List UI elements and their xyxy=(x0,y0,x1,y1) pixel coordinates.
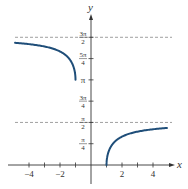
series-left-branch xyxy=(15,43,75,80)
y-tick-label-numerator: π xyxy=(81,115,85,123)
x-tick-label: −2 xyxy=(55,169,65,179)
y-tick-label-numerator: 3π xyxy=(79,30,87,38)
series-right-branch xyxy=(107,128,167,165)
y-tick-label-denominator: 4 xyxy=(81,144,85,152)
y-tick-label-numerator: 3π xyxy=(79,94,87,102)
y-tick-label-denominator: 2 xyxy=(81,123,85,131)
y-tick-label-numerator: 5π xyxy=(79,51,87,59)
y-axis-label: y xyxy=(87,1,93,13)
y-tick-label-denominator: 4 xyxy=(81,59,85,67)
x-tick-label: 2 xyxy=(120,169,125,179)
chart: x y −4−224 π4π23π4π5π43π2 xyxy=(0,0,188,189)
y-axis-arrow xyxy=(89,14,93,20)
y-tick-label-denominator: 2 xyxy=(81,38,85,46)
x-tick-label: 4 xyxy=(151,169,156,179)
x-axis-label: x xyxy=(176,158,182,170)
x-axis-arrow xyxy=(169,163,175,167)
y-tick-label-denominator: 4 xyxy=(81,102,85,110)
y-tick-label: π xyxy=(81,75,86,85)
y-tick-label-numerator: π xyxy=(81,136,85,144)
axes: x y xyxy=(8,1,182,184)
x-tick-label: −4 xyxy=(24,169,34,179)
